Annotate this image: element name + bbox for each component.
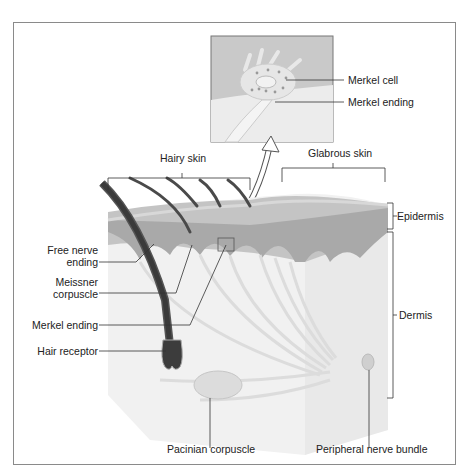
label-dermis: Dermis bbox=[399, 309, 432, 321]
label-hair-receptor: Hair receptor bbox=[37, 345, 98, 357]
merkel-inset bbox=[211, 36, 344, 142]
skin-diagram bbox=[0, 0, 466, 475]
label-merkel-ending: Merkel ending bbox=[32, 319, 98, 331]
label-merkel-cell: Merkel cell bbox=[348, 74, 398, 86]
label-meissner-2: corpuscle bbox=[53, 288, 98, 300]
skin-block bbox=[102, 178, 388, 455]
label-glabrous-skin: Glabrous skin bbox=[308, 147, 372, 159]
label-meissner-1: Meissner bbox=[55, 276, 98, 288]
label-pacinian-corpuscle: Pacinian corpuscle bbox=[167, 443, 255, 455]
label-merkel-ending-inset: Merkel ending bbox=[348, 96, 414, 108]
label-hairy-skin: Hairy skin bbox=[160, 152, 206, 164]
label-peripheral-nerve-bundle: Peripheral nerve bundle bbox=[316, 443, 428, 455]
label-free-nerve-1: Free nerve bbox=[47, 244, 98, 256]
label-epidermis: Epidermis bbox=[397, 210, 444, 222]
label-free-nerve-2: ending bbox=[66, 256, 98, 268]
